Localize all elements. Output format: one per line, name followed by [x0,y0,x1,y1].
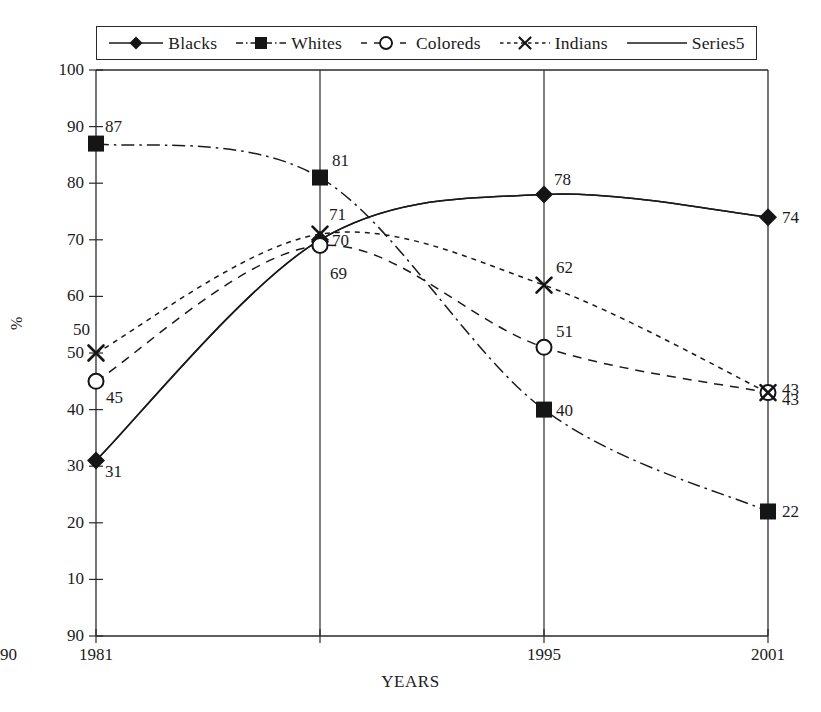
data-label-blacks: 31 [105,462,122,481]
data-label-indians: 62 [556,258,573,277]
series-line-indians [96,232,768,393]
data-label-coloreds: 45 [106,388,123,407]
series-line-series5 [96,194,768,460]
series-lines-layer [96,144,768,512]
data-label-coloreds: 69 [330,264,347,283]
data-label-indians: 50 [73,320,90,339]
data-point-marker-coloreds [89,374,104,389]
data-point-marker-blacks [535,186,553,204]
data-label-blacks: 78 [554,170,571,189]
series-line-whites [96,144,768,512]
line-chart: Blacks Whites Coloreds [0,0,821,712]
data-label-whites: 81 [332,151,349,170]
data-labels-layer: 31707874878140224569514350716243 [73,117,800,522]
data-point-marker-blacks [759,208,777,226]
data-point-marker-whites [312,170,328,186]
plot-area: 31707874878140224569514350716243 [0,0,821,712]
category-gridlines [320,70,544,636]
data-point-marker-coloreds [537,340,552,355]
data-label-indians: 43 [782,380,799,399]
data-point-marker-whites [760,503,776,519]
data-point-marker-whites [536,402,552,418]
data-label-blacks: 74 [782,208,800,227]
data-label-indians: 71 [329,205,346,224]
series-line-blacks [96,194,768,460]
series-line-coloreds [96,245,768,392]
plot-frame [96,70,768,636]
data-label-whites: 87 [105,117,123,136]
data-label-coloreds: 51 [556,322,573,341]
data-label-whites: 40 [556,401,573,420]
series-markers-layer [87,136,777,520]
data-label-whites: 22 [782,502,799,521]
data-point-marker-whites [88,136,104,152]
data-label-blacks: 70 [332,231,349,250]
